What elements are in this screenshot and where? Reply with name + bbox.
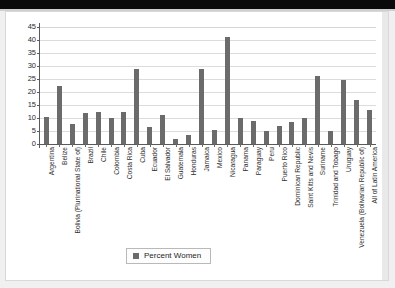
scan-top-black-band [0, 0, 395, 9]
bar-slot [260, 27, 273, 144]
x-axis-label: Dominican Republic [295, 147, 302, 206]
x-axis-label: Panama [243, 147, 250, 172]
chart-legend: Percent Women [126, 248, 211, 264]
bar [264, 131, 269, 144]
bar [212, 130, 217, 144]
x-axis-label: Mexico [217, 147, 224, 168]
x-axis-tick-mark [305, 144, 306, 147]
bar [315, 76, 320, 144]
x-axis-label: Jamaica [204, 147, 211, 172]
x-axis-label: Brazil [88, 147, 95, 164]
bar-chart: 454035302520151050 ArgentinaBelizeBolivi… [6, 12, 388, 280]
bar-slot [130, 27, 143, 144]
y-axis-tick-label: 30 [28, 62, 36, 70]
bar-slot [221, 27, 234, 144]
x-axis-label: Belize [62, 147, 69, 165]
bar-slot [79, 27, 92, 144]
bar [147, 127, 152, 144]
bar-slot [298, 27, 311, 144]
bar-slot [363, 27, 376, 144]
bar [121, 112, 126, 145]
bar-slot [53, 27, 66, 144]
plot-area: 454035302520151050 [40, 27, 376, 144]
y-axis-tick-label: 0 [32, 140, 36, 148]
x-axis-label: Honduras [191, 147, 198, 176]
x-axis-label: Bolivia (Plurinational State of) [75, 147, 82, 234]
bar [225, 37, 230, 144]
bar-slot [247, 27, 260, 144]
x-axis-label: Chile [101, 147, 108, 162]
x-axis-label: Nicaragua [230, 147, 237, 177]
x-axis-tick-mark [124, 144, 125, 147]
bar [70, 124, 75, 144]
bar-slot [350, 27, 363, 144]
y-axis-tick-label: 15 [28, 101, 36, 109]
y-axis-tick-label: 10 [28, 114, 36, 122]
x-axis-tick-mark [98, 144, 99, 147]
x-axis-label: Costa Rica [127, 147, 134, 179]
bar-slot [208, 27, 221, 144]
bar-slot [156, 27, 169, 144]
y-axis-tick-label: 5 [32, 127, 36, 135]
x-axis-label: Suriname [320, 147, 327, 175]
x-axis-label: Colombia [114, 147, 121, 175]
x-axis-label: Saint Kitts and Nevis [308, 147, 315, 208]
bar-slot [234, 27, 247, 144]
bar-slot [92, 27, 105, 144]
bar [328, 131, 333, 144]
screenshot-root: 454035302520151050 ArgentinaBelizeBolivi… [0, 0, 395, 288]
bar-slot [273, 27, 286, 144]
bar [199, 69, 204, 144]
x-axis-label: Peru [269, 147, 276, 161]
x-axis-label: Puerto Rico [282, 147, 289, 181]
x-axis-label: Trinidad and Tobago [333, 147, 340, 207]
chart-page-card: 454035302520151050 ArgentinaBelizeBolivi… [5, 11, 389, 281]
bar-slot [118, 27, 131, 144]
y-axis-tick-label: 35 [28, 49, 36, 57]
bar-slot [169, 27, 182, 144]
x-axis-label: Uruguay [346, 147, 353, 172]
x-axis-label: Guatemala [178, 147, 185, 179]
bar [57, 86, 62, 144]
bar [238, 118, 243, 144]
bar [277, 126, 282, 144]
bar [134, 69, 139, 144]
y-axis-tick-label: 45 [28, 23, 36, 31]
bar-slot [66, 27, 79, 144]
x-axis-tick-mark [292, 144, 293, 147]
y-axis-tick-label: 25 [28, 75, 36, 83]
y-axis-tick-mark [37, 144, 40, 145]
x-axis-label: Cuba [140, 147, 147, 163]
legend-swatch-icon [133, 253, 139, 259]
y-axis-tick-label: 40 [28, 36, 36, 44]
bar-slot [40, 27, 53, 144]
bar-slot [105, 27, 118, 144]
bar-slot [182, 27, 195, 144]
bar [367, 110, 372, 144]
x-axis-tick-mark [279, 144, 280, 147]
bar-slot [324, 27, 337, 144]
x-axis-label: Paraguay [256, 147, 263, 175]
x-axis-line [39, 144, 376, 145]
x-axis-label: All of Latin America [372, 147, 379, 203]
x-axis-label: Argentina [49, 147, 56, 175]
bar [96, 112, 101, 144]
bar-slot [311, 27, 324, 144]
legend-label: Percent Women [144, 252, 201, 260]
x-axis-label: El Salvador [165, 147, 172, 181]
bar-slot [337, 27, 350, 144]
x-axis-tick-mark [266, 144, 267, 147]
x-axis-label: Venezuela (Bolivarian Republic of) [359, 147, 366, 248]
x-axis-label: Ecuador [152, 147, 159, 172]
x-axis-tick-mark [111, 144, 112, 147]
y-axis-tick-label: 20 [28, 88, 36, 96]
bar [83, 113, 88, 144]
bar-slot [195, 27, 208, 144]
bar [341, 80, 346, 144]
bar [109, 118, 114, 144]
bar-group [40, 27, 376, 144]
bar-slot [143, 27, 156, 144]
bar [289, 122, 294, 144]
bar [44, 117, 49, 144]
bar [160, 115, 165, 144]
